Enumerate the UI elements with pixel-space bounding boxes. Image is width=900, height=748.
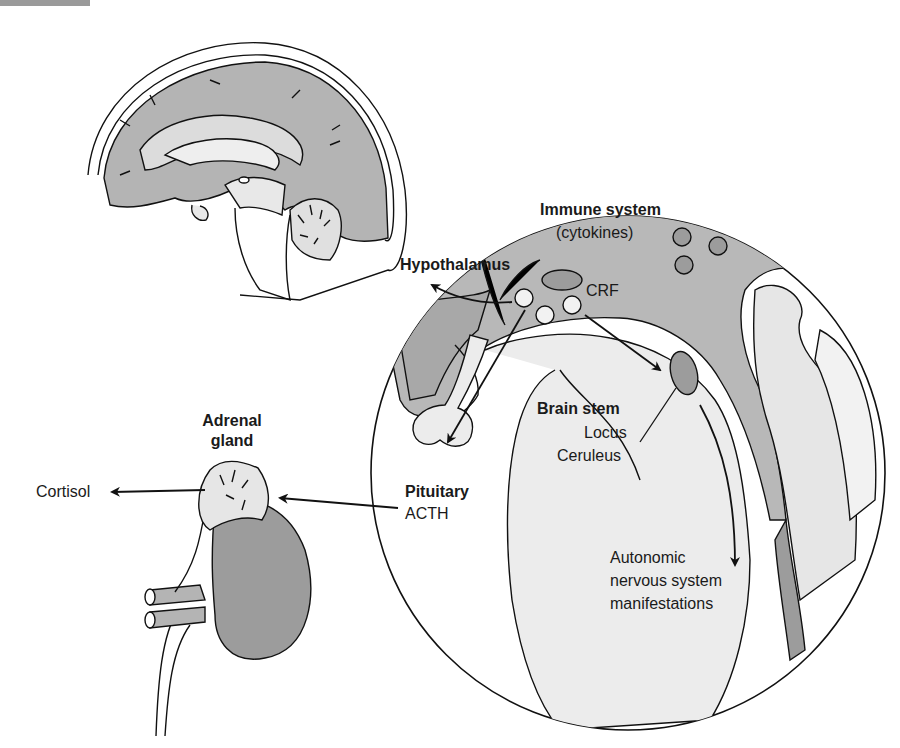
label-cortisol: Cortisol	[36, 482, 90, 501]
label-locus: Locus	[584, 423, 627, 442]
label-crf: CRF	[586, 281, 619, 300]
label-manifestations: manifestations	[610, 594, 713, 613]
label-gland: gland	[202, 431, 262, 450]
label-adrenal: Adrenal	[202, 411, 262, 430]
label-pituitary: Pituitary	[405, 482, 469, 501]
brain-sagittal-icon	[88, 43, 406, 300]
label-acth: ACTH	[405, 504, 449, 523]
label-brain-stem: Brain stem	[537, 399, 620, 418]
label-autonomic: Autonomic	[610, 548, 686, 567]
adrenal-kidney-icon	[145, 462, 311, 737]
label-ceruleus: Ceruleus	[557, 446, 621, 465]
label-nervous-system: nervous system	[610, 571, 722, 590]
diagram-canvas	[0, 0, 900, 748]
cortisol-arrow-icon	[112, 490, 205, 492]
label-hypothalamus: Hypothalamus	[400, 255, 510, 274]
label-cytokines: (cytokines)	[556, 223, 633, 242]
label-immune-system: Immune system	[540, 200, 661, 219]
magnified-brain-region-icon	[371, 197, 885, 730]
